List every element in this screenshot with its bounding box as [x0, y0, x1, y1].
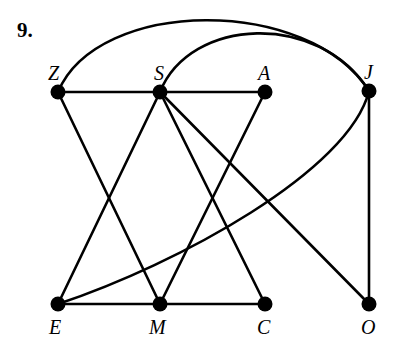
node-label-s: S: [154, 62, 164, 84]
node-label-z: Z: [48, 62, 60, 84]
node-label-c: C: [257, 316, 271, 338]
node-m: [153, 297, 168, 312]
node-label-e: E: [48, 316, 61, 338]
node-s: [153, 85, 168, 100]
edge-z-j: [58, 20, 369, 92]
node-o: [362, 297, 377, 312]
node-label-a: A: [256, 62, 271, 84]
node-c: [258, 297, 273, 312]
edge-s-o: [160, 92, 369, 304]
node-j: [362, 84, 377, 99]
node-label-m: M: [148, 316, 167, 338]
node-label-o: O: [361, 316, 375, 338]
graph-diagram: ZSAJEMCO: [0, 0, 393, 358]
node-label-j: J: [364, 61, 374, 83]
edges-group: [58, 20, 369, 304]
node-e: [51, 297, 66, 312]
node-a: [258, 85, 273, 100]
node-z: [51, 85, 66, 100]
